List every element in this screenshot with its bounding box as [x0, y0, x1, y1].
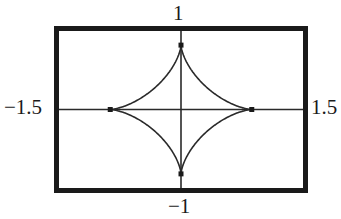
y-min-label: −1 — [168, 196, 190, 217]
plot-area — [0, 0, 341, 219]
y-max-label: 1 — [173, 3, 184, 24]
cusp-marker — [249, 107, 254, 112]
cusp-marker — [179, 171, 184, 176]
x-max-label: 1.5 — [311, 97, 337, 118]
x-min-label: −1.5 — [4, 97, 42, 118]
cusp-marker — [179, 43, 184, 48]
cusp-marker — [108, 107, 113, 112]
